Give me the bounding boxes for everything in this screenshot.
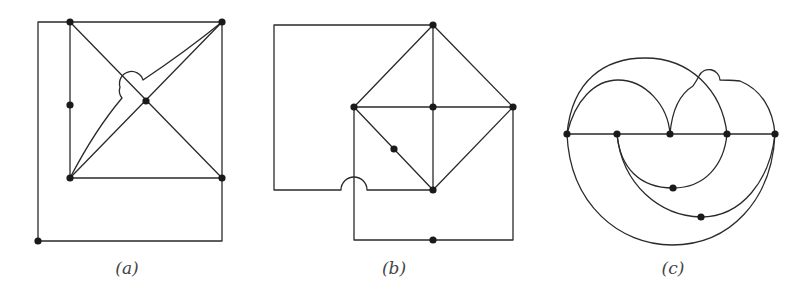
panel-b-graph: [274, 21, 517, 243]
graph-vertex: [429, 21, 436, 28]
graph-vertex: [429, 186, 436, 193]
graph-vertex: [390, 145, 397, 152]
graph-edge: [617, 134, 775, 217]
caption-b: (b): [382, 258, 406, 278]
graph-vertex: [669, 184, 676, 191]
caption-c: (c): [662, 258, 685, 278]
graph-vertex: [697, 213, 704, 220]
graph-vertex: [429, 103, 436, 110]
graph-edge: [38, 22, 222, 241]
graph-edge: [433, 25, 513, 107]
graph-vertex: [34, 237, 41, 244]
figure-canvas: [0, 0, 806, 297]
graph-vertex: [771, 130, 778, 137]
graph-edge: [433, 107, 513, 190]
graph-edge: [354, 25, 433, 107]
graph-vertex: [66, 18, 73, 25]
graph-vertex: [429, 236, 436, 243]
panel-a-graph: [34, 18, 225, 244]
graph-edge: [38, 22, 70, 241]
graph-vertex: [66, 174, 73, 181]
graph-vertex: [142, 97, 149, 104]
graph-vertex: [350, 103, 357, 110]
graph-vertex: [218, 174, 225, 181]
graph-vertex: [66, 101, 73, 108]
graph-vertex: [723, 130, 730, 137]
graph-vertex: [563, 130, 570, 137]
graph-edge: [567, 58, 727, 134]
graph-vertex: [666, 130, 673, 137]
graph-vertex: [509, 103, 516, 110]
graph-vertex: [613, 130, 620, 137]
panel-c-graph: [563, 58, 778, 245]
graph-edge: [670, 70, 775, 134]
graph-vertex: [218, 18, 225, 25]
caption-a: (a): [115, 258, 138, 278]
